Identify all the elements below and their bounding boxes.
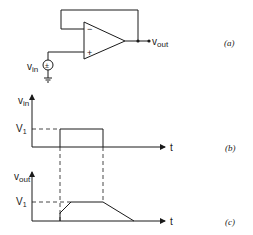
vout-waveform [60, 202, 134, 221]
vin-v1-label: V1 [16, 123, 27, 135]
caption-c: (c) [225, 217, 235, 227]
feedback-wire [61, 10, 138, 41]
vout-v1-label: V1 [16, 196, 27, 208]
vout-label: vout [152, 36, 169, 49]
caption-b: (b) [225, 143, 236, 153]
vin-t-label: t [170, 142, 173, 153]
output-plot: vout V1 t (c) [14, 171, 235, 227]
input-wire [48, 52, 84, 60]
vout-t-label: t [170, 216, 173, 227]
caption-a: (a) [224, 38, 235, 48]
minus-input-sign: − [87, 24, 92, 34]
source-polarity: ± [45, 62, 49, 69]
ground-icon [44, 78, 52, 82]
input-plot: vin V1 t (b) [16, 95, 236, 153]
output-terminal-dot [147, 39, 150, 42]
voltage-follower-diagram: − + ± vin vout (a) vin V1 t (b) [0, 0, 253, 235]
circuit: − + ± vin vout (a) [27, 10, 235, 82]
vout-axis-label: vout [14, 171, 31, 184]
vin-pulse [60, 129, 103, 147]
plus-input-sign: + [87, 48, 92, 58]
vin-label: vin [27, 61, 38, 74]
output-junction-dot [136, 39, 139, 42]
vin-axis-label: vin [18, 95, 29, 108]
